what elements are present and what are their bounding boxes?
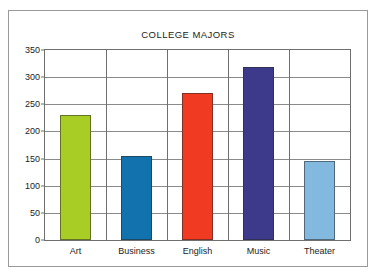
plot-area: 050100150200250300350ArtBusinessEnglishM…: [44, 49, 351, 241]
chart-title: COLLEGE MAJORS: [9, 29, 367, 40]
y-axis-tick-0: [41, 240, 45, 241]
x-axis-label-english: English: [183, 246, 213, 256]
bar-art[interactable]: [60, 115, 91, 240]
bar-english[interactable]: [182, 93, 213, 240]
y-axis-tick-50: [41, 212, 45, 213]
category-separator-3: [228, 50, 229, 240]
y-axis-tick-100: [41, 185, 45, 186]
y-axis-label-300: 300: [25, 72, 40, 82]
y-axis-tick-200: [41, 131, 45, 132]
bar-music[interactable]: [243, 67, 274, 240]
y-axis-label-200: 200: [25, 126, 40, 136]
bar-business[interactable]: [121, 156, 152, 240]
y-axis-label-350: 350: [25, 45, 40, 55]
x-axis-label-theater: Theater: [304, 246, 335, 256]
gridline-y-300: [45, 77, 350, 78]
x-axis-label-art: Art: [70, 246, 82, 256]
chart-figure-frame: COLLEGE MAJORS 050100150200250300350ArtB…: [8, 10, 368, 267]
y-axis-label-0: 0: [35, 235, 40, 245]
category-separator-1: [106, 50, 107, 240]
x-axis-label-business: Business: [118, 246, 155, 256]
y-axis-label-50: 50: [30, 208, 40, 218]
y-axis-tick-250: [41, 104, 45, 105]
y-axis-label-100: 100: [25, 181, 40, 191]
y-axis-label-250: 250: [25, 99, 40, 109]
y-axis-tick-350: [41, 50, 45, 51]
category-separator-2: [167, 50, 168, 240]
category-separator-4: [289, 50, 290, 240]
bar-theater[interactable]: [304, 161, 335, 240]
x-axis-label-music: Music: [247, 246, 271, 256]
y-axis-tick-300: [41, 77, 45, 78]
y-axis-tick-150: [41, 158, 45, 159]
y-axis-label-150: 150: [25, 154, 40, 164]
